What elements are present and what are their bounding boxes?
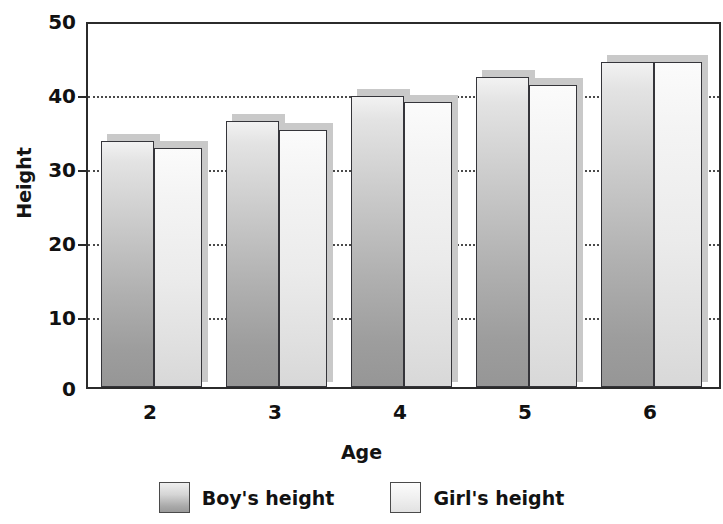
- y-tick-label-10: 10: [32, 308, 76, 328]
- bar-girl-5[interactable]: [529, 85, 577, 387]
- bar-girl-4[interactable]: [404, 102, 452, 387]
- girl-swatch-icon: [390, 482, 421, 513]
- bar-girl-3[interactable]: [279, 130, 327, 387]
- x-tick-label-3: 3: [245, 400, 305, 424]
- plot-area: [86, 22, 721, 389]
- bar-boy-6[interactable]: [601, 62, 654, 387]
- legend-item-boy[interactable]: Boy's height: [159, 482, 335, 513]
- bar-boy-3[interactable]: [226, 121, 279, 387]
- y-tick-mark-40: [78, 96, 86, 98]
- boy-swatch-icon: [159, 482, 190, 513]
- bar-boy-5[interactable]: [476, 77, 529, 387]
- bar-girl-6[interactable]: [654, 62, 702, 387]
- bar-boy-4[interactable]: [351, 96, 404, 387]
- legend-item-girl[interactable]: Girl's height: [390, 482, 564, 513]
- y-tick-mark-30: [78, 170, 86, 172]
- y-tick-label-50: 50: [32, 12, 76, 32]
- x-tick-label-6: 6: [620, 400, 680, 424]
- bar-group-6: [599, 24, 712, 387]
- chart-legend: Boy's height Girl's height: [0, 482, 723, 513]
- bar-group-5: [474, 24, 587, 387]
- x-tick-label-4: 4: [370, 400, 430, 424]
- x-tick-label-2: 2: [120, 400, 180, 424]
- y-tick-label-20: 20: [32, 234, 76, 254]
- bar-boy-2[interactable]: [101, 141, 154, 387]
- bar-group-3: [224, 24, 337, 387]
- legend-label-boy: Boy's height: [202, 487, 335, 509]
- legend-label-girl: Girl's height: [433, 487, 564, 509]
- bar-group-2: [99, 24, 212, 387]
- y-tick-label-0: 0: [32, 379, 76, 399]
- bar-chart: Height 50 40 30 20 10 0: [0, 0, 723, 524]
- y-tick-mark-10: [78, 318, 86, 320]
- bar-group-4: [349, 24, 462, 387]
- x-axis-title: Age: [0, 441, 723, 463]
- y-tick-label-40: 40: [32, 86, 76, 106]
- y-tick-mark-20: [78, 244, 86, 246]
- bar-girl-2[interactable]: [154, 148, 202, 387]
- x-tick-label-5: 5: [495, 400, 555, 424]
- y-tick-label-30: 30: [32, 160, 76, 180]
